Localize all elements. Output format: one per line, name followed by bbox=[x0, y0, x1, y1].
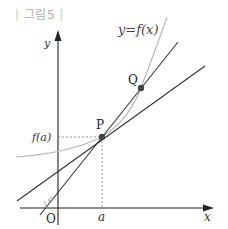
point-p-label: P bbox=[96, 118, 104, 132]
a-label: a bbox=[98, 210, 105, 224]
angle-label: θ bbox=[48, 196, 53, 205]
angle-arc bbox=[44, 201, 46, 208]
y-axis-arrow-icon bbox=[55, 30, 62, 41]
diagram: y x O θ a f(a) P Q y=f(x) bbox=[0, 0, 228, 229]
point-q-label: Q bbox=[128, 73, 138, 87]
point-q bbox=[138, 85, 144, 91]
point-p bbox=[99, 134, 105, 140]
curve-label: y=f(x) bbox=[117, 22, 159, 37]
y-axis-label: y bbox=[43, 37, 51, 50]
fa-label: f(a) bbox=[31, 131, 51, 144]
origin-label: O bbox=[46, 212, 56, 226]
x-axis-label: x bbox=[204, 210, 211, 224]
x-axis bbox=[20, 205, 214, 212]
secant-line-pq bbox=[40, 42, 178, 215]
